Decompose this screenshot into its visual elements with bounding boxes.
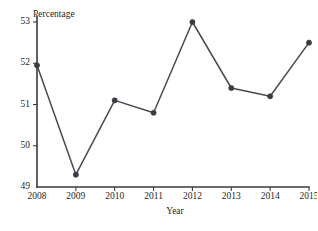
y-axis-tick-label: 49 — [21, 181, 31, 191]
y-axis-tick-label: 51 — [21, 99, 31, 109]
data-point-marker: 2015: 52.5 — [306, 40, 311, 45]
data-point-marker: 2008: 51.95 — [34, 63, 39, 68]
y-axis-tick-label: 52 — [21, 57, 31, 67]
x-axis-tick-label: 2011 — [144, 191, 163, 201]
x-axis-tick-label: 2014 — [261, 191, 280, 201]
x-axis-tick-label: 2012 — [183, 191, 202, 201]
y-axis-tick-label: 53 — [21, 16, 31, 26]
x-axis-tick-label-group: 20082009201020112012201320142015 — [28, 191, 318, 201]
data-point-marker: 2013: 51.4 — [229, 85, 234, 90]
y-axis-title: Percentage — [33, 9, 75, 19]
data-point-marker: 2010: 51.1 — [112, 98, 117, 103]
x-axis-tick-label: 2013 — [222, 191, 241, 201]
data-point-marker: 2009: 49.3 — [73, 172, 78, 177]
y-axis-tick-label: 50 — [21, 140, 31, 150]
x-axis-tick-label: 2009 — [66, 191, 85, 201]
line-chart-figure: 4950515253 20082009201020112012201320142… — [0, 0, 317, 231]
x-axis-tick-label: 2010 — [105, 191, 124, 201]
x-axis-title: Year — [166, 206, 184, 216]
x-axis-tick-label: 2008 — [28, 191, 47, 201]
chart-canvas: 4950515253 20082009201020112012201320142… — [0, 0, 317, 231]
data-point-marker-group: 2008: 51.952009: 49.32010: 51.12011: 50.… — [34, 19, 311, 177]
data-point-marker: 2012: 53 — [190, 19, 195, 24]
x-axis-tick-label: 2015 — [300, 191, 318, 201]
data-point-marker: 2014: 51.2 — [268, 94, 273, 99]
data-point-marker: 2011: 50.8 — [151, 110, 156, 115]
y-axis-tick-label-group: 4950515253 — [21, 16, 31, 191]
